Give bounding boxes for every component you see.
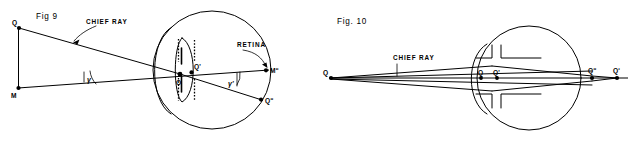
fig9-label-q-prime: Q' [194, 63, 201, 71]
retina-arrowhead-fig9 [262, 63, 268, 69]
point-dot-q-double-prime-fig10 [590, 76, 594, 80]
angle-gamma-prime-arc-fig9 [237, 72, 240, 85]
figure-sheet: Fig 9 CHIEF RAY RETINA Q M O Q' Mʺ Qʺ γ … [0, 0, 634, 161]
fig9-label-m-double-prime: Mʺ [270, 67, 279, 74]
chief-ray-leader-fig9 [74, 26, 96, 41]
figure-fig9: Fig 9 CHIEF RAY RETINA Q M O Q' Mʺ Qʺ γ … [11, 11, 279, 129]
fig10-label-q-double-prime: Qʺ [588, 67, 596, 75]
fig9-label-m: M [11, 92, 17, 99]
fig9-retina-label: RETINA [237, 41, 266, 48]
point-dot-q-entrance-fig10 [479, 76, 483, 80]
point-dot-q-fig9 [17, 26, 21, 30]
point-dot-o-fig9 [178, 72, 183, 77]
fig9-label-q-double-prime: Qʺ [265, 97, 273, 105]
fig9-label-o: O [176, 79, 181, 86]
fig10-label-q-triple-prime: Qʹ [613, 67, 620, 75]
point-dot-q-triple-prime-fig10 [615, 76, 619, 80]
fig10-chief-ray-label: CHIEF RAY [393, 54, 435, 61]
iris-lower-right-leaf-fig10 [501, 94, 541, 108]
retina-leader-fig9 [243, 50, 266, 66]
fig10-label-q-entrance: Q [478, 69, 483, 77]
eyeball-outline-fig9 [153, 11, 271, 129]
figure-fig10: Fig. 10 CHIEF RAY Q Q Q' Qʺ Qʹ [323, 17, 628, 130]
fig9-chief-ray-label: CHIEF RAY [86, 18, 128, 25]
point-dot-m-double-prime-fig9 [264, 68, 268, 72]
fig10-title: Fig. 10 [337, 17, 367, 26]
iris-upper-right-leaf-fig10 [501, 45, 541, 58]
point-dot-q-object-fig10 [329, 76, 333, 80]
fig9-label-q: Q [12, 19, 17, 27]
cornea-arc-fig10 [471, 44, 487, 114]
lower-marginal-ray-emergent-fig10 [492, 81, 592, 91]
point-dot-q-prime-fig10 [495, 76, 499, 80]
fig10-label-q-prime: Q' [493, 69, 500, 77]
chief-ray-emergent-fig9 [180, 74, 262, 100]
fig9-angle-gamma-prime: γ' [228, 80, 234, 88]
upper-chief-ray-fig10 [331, 71, 592, 78]
fig9-title: Fig 9 [36, 12, 58, 21]
point-dot-q-double-prime-fig9 [259, 98, 263, 102]
point-dot-q-prime-fig9 [189, 70, 193, 74]
fig10-label-q-object: Q [323, 69, 328, 77]
point-dot-m-fig9 [16, 86, 20, 90]
